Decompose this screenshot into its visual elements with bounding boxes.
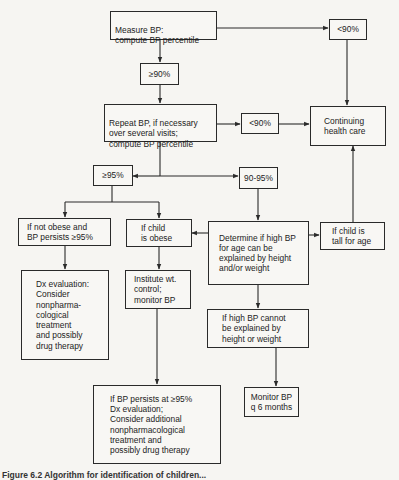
node-not-obese: If not obese and BP persists ≥95% xyxy=(18,218,111,246)
node-tall-for-age: If child is tall for age xyxy=(320,222,385,250)
node-repeat-bp: Repeat BP, if necessary over several vis… xyxy=(104,104,217,142)
node-label: If high BP cannot be explained by height… xyxy=(222,313,286,344)
node-label: <90% xyxy=(249,118,271,128)
node-institute-wt: Institute wt. control; monitor BP xyxy=(125,270,191,309)
node-label: 90-95% xyxy=(244,173,273,183)
node-label: Repeat BP, if necessary over several vis… xyxy=(109,118,212,149)
node-label: Institute wt. control; monitor BP xyxy=(134,274,176,305)
node-label: Determine if high BP for age can be expl… xyxy=(219,233,296,274)
node-persists-95: If BP persists at ≥95% Dx evaluation; Co… xyxy=(93,385,221,464)
node-label: If child is tall for age xyxy=(332,226,371,246)
figure-caption: Figure 6.2 Algorithm for identification … xyxy=(2,470,206,480)
node-label: Dx evaluation: Consider nonpharma- colog… xyxy=(36,279,89,350)
node-dx-evaluation: Dx evaluation: Consider nonpharma- colog… xyxy=(21,270,109,360)
node-ge95: ≥95% xyxy=(93,165,133,186)
node-label: If not obese and BP persists ≥95% xyxy=(27,222,93,242)
node-lt90-top: <90% xyxy=(329,19,367,40)
node-determine: Determine if high BP for age can be expl… xyxy=(208,221,309,285)
node-lt90-mid: <90% xyxy=(241,113,279,134)
node-label: If BP persists at ≥95% Dx evaluation; Co… xyxy=(110,394,192,455)
node-label: Measure BP: compute BP percentile xyxy=(115,25,212,45)
node-label: <90% xyxy=(337,24,359,34)
node-ge90: ≥90% xyxy=(140,63,179,85)
node-label: Monitor BP q 6 months xyxy=(251,392,292,412)
node-measure-bp: Measure BP: compute BP percentile xyxy=(110,11,217,40)
node-90-95: 90-95% xyxy=(239,167,278,189)
node-label: If child is obese xyxy=(141,223,172,243)
node-continuing-care: Continuing health care xyxy=(310,106,386,146)
node-label: Continuing health care xyxy=(324,116,365,136)
node-label: ≥90% xyxy=(149,69,170,79)
node-label: ≥95% xyxy=(102,170,123,180)
node-child-obese: If child is obese xyxy=(126,219,192,247)
node-monitor-bp: Monitor BP q 6 months xyxy=(244,387,299,417)
node-cannot-explain: If high BP cannot be explained by height… xyxy=(207,309,309,348)
